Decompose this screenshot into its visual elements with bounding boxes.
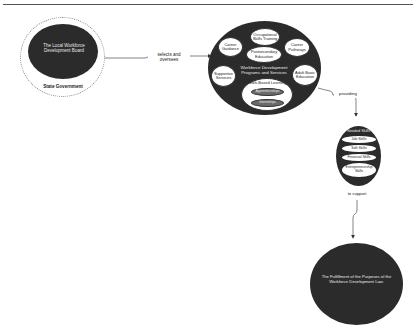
edge-label-support: to support: [344, 188, 370, 200]
apprenticeships-label: Apprenticeships: [251, 88, 284, 96]
edge-label-selects: selects and oversees: [148, 50, 190, 64]
programs-title: Workforce Development Programs and Servi…: [236, 64, 292, 78]
skill-soft-label: Soft Skills: [342, 145, 376, 152]
skill-job-label: Job Skills: [342, 136, 376, 143]
state-government-label: State Government: [40, 83, 86, 90]
program-postsecondary-label: Postsecondary Education: [248, 46, 280, 63]
needed-skills-title: Needed Skills: [340, 128, 377, 135]
program-supportive-services-label: Supportive Services: [211, 65, 236, 87]
edge-label-providing: providing: [334, 90, 362, 98]
local-board-label: The Local Workforce Development Board: [38, 38, 90, 60]
skill-entrepreneurship-label: Entrepreneurship Skills: [344, 163, 374, 177]
work-based-learning-label: Work-Based Learning: [243, 80, 291, 87]
skill-financial-label: Financial Skills: [342, 154, 376, 161]
outcome-label: The Fulfillment of the Purposes of the W…: [315, 272, 398, 288]
program-career-pathways-label: Career Pathways: [284, 38, 310, 57]
internships-label: Internships: [251, 99, 284, 107]
program-adult-basic-education-label: Adult Basic Education: [292, 64, 318, 86]
program-career-guidance-label: Career Guidance: [218, 37, 243, 57]
program-occupational-skills-label: Occupational Skills Training: [250, 28, 280, 46]
